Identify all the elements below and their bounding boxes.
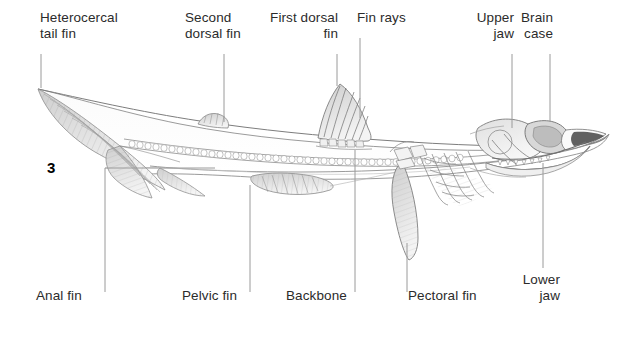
label-pectoral-fin: Pectoral fin (408, 288, 504, 304)
label-pelvic-fin: Pelvic fin (182, 288, 272, 304)
first-dorsal-fin-art (316, 84, 372, 149)
label-brain-case: Brain case (505, 10, 553, 41)
shark-anatomy-figure: 3 Heterocercal tail fin Second dorsal fi… (0, 0, 623, 338)
label-heterocercal-tail-fin: Heterocercal tail fin (40, 10, 160, 41)
head-skull-art (470, 119, 606, 177)
label-fin-rays: Fin rays (357, 10, 427, 26)
anal-fin-art (157, 168, 205, 196)
label-anal-fin: Anal fin (36, 288, 126, 304)
label-backbone: Backbone (286, 288, 376, 304)
figure-number: 3 (47, 159, 55, 176)
label-first-dorsal-fin: First dorsal fin (246, 10, 338, 41)
label-lower-jaw: Lower jaw (512, 272, 560, 303)
